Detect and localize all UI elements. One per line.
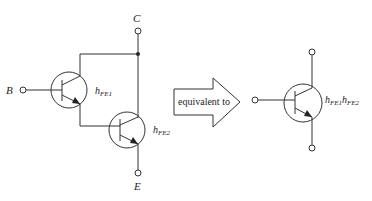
darlington-diagram: B hFE1 C hFE2 xyxy=(0,0,372,201)
eq-base-terminal xyxy=(252,97,258,103)
arrow-label: equivalent to xyxy=(178,96,230,107)
base-terminal xyxy=(20,87,26,93)
eq-body-circle xyxy=(284,84,322,122)
q1-collector-wire xyxy=(80,54,138,76)
equivalent-transistor: hFE1hFE2 xyxy=(252,49,360,151)
collector-label: C xyxy=(133,12,141,24)
q1-collector-lead xyxy=(62,76,80,85)
q2-collector-lead xyxy=(120,117,138,125)
equivalent-arrow: equivalent to xyxy=(174,78,240,127)
emitter-label: E xyxy=(133,180,141,192)
eq-emitter-terminal xyxy=(309,145,315,151)
q2-gain-label: hFE2 xyxy=(153,124,171,137)
collector-terminal xyxy=(135,28,141,34)
eq-collector-lead xyxy=(295,88,312,96)
eq-collector-terminal xyxy=(309,49,315,55)
q1-emitter-to-q2-base-wire xyxy=(80,104,120,126)
q1-gain-label: hFE1 xyxy=(95,85,112,98)
darlington-pair: B hFE1 C hFE2 xyxy=(6,12,171,192)
eq-gain-label: hFE1hFE2 xyxy=(325,94,360,107)
emitter-terminal xyxy=(135,170,141,176)
base-label: B xyxy=(6,84,13,96)
transistor-q2 xyxy=(109,112,145,148)
q2-body-circle xyxy=(109,112,145,148)
